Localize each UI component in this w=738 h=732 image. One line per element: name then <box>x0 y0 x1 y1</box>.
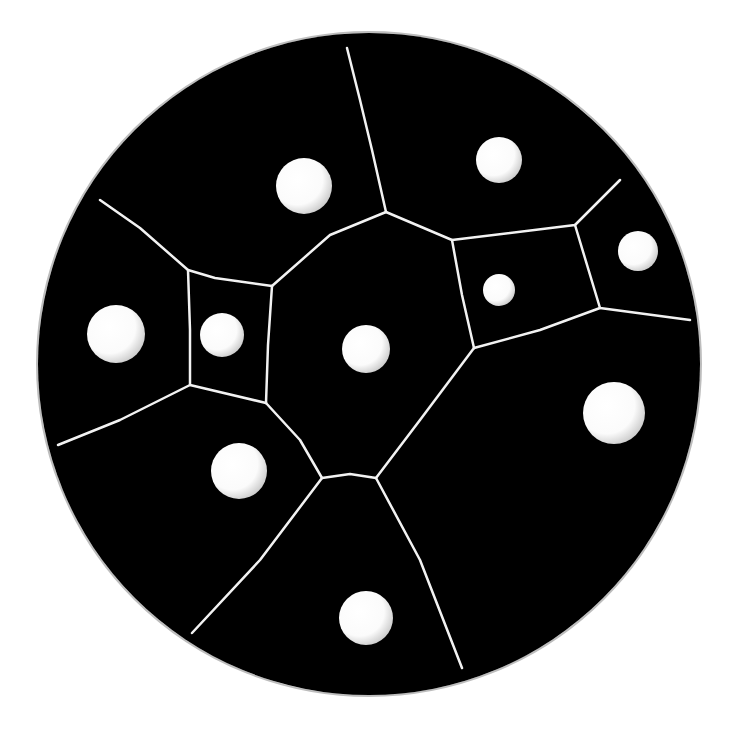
dish-svg <box>0 0 738 732</box>
seed-circle <box>87 305 145 363</box>
seed-circle <box>211 443 267 499</box>
seed-circle <box>483 274 515 306</box>
seed-circle <box>476 137 522 183</box>
seed-circle <box>339 591 393 645</box>
seed-circle <box>583 382 645 444</box>
seed-circle <box>200 313 244 357</box>
seed-circle <box>276 158 332 214</box>
seed-circle <box>618 231 658 271</box>
seed-circle <box>342 325 390 373</box>
dish-image <box>0 0 738 732</box>
